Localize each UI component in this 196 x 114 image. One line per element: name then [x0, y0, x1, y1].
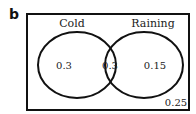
outside-value: 0.25: [165, 97, 187, 108]
venn-diagram: Cold Raining 0.3 0.3 0.15 0.25: [0, 0, 196, 114]
intersection-value: 0.3: [102, 60, 118, 71]
raining-set-label: Raining: [131, 17, 174, 30]
cold-only-value: 0.3: [56, 60, 72, 71]
cold-set-label: Cold: [59, 17, 85, 30]
raining-only-value: 0.15: [144, 60, 166, 71]
